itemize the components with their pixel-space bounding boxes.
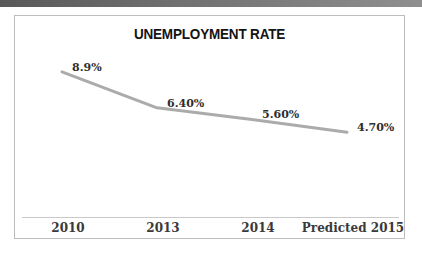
unemployment-line-series [62,72,347,133]
x-axis-label-2013: 2013 [146,221,179,235]
x-axis-label-2010: 2010 [51,221,84,235]
data-label-predicted-2015: 4.70% [357,121,394,134]
data-label-2014: 5.60% [262,108,299,121]
x-axis-label-predicted-2015: Predicted 2015 [302,221,404,235]
unemployment-chart: UNEMPLOYMENT RATE 8.9% 6.40% 5.60% 4.70%… [0,0,422,260]
data-label-2013: 6.40% [167,97,204,110]
x-axis-label-2014: 2014 [241,221,274,235]
data-label-2010: 8.9% [72,61,102,74]
x-axis-line [22,217,399,218]
